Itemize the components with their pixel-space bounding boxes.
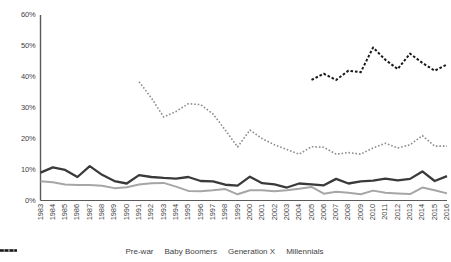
- legend-swatch-icon: [0, 247, 17, 254]
- x-axis-tick-2014: 2014: [418, 204, 426, 220]
- x-axis-tick-1995: 1995: [184, 204, 192, 220]
- x-axis-tick-2015: 2015: [431, 204, 439, 220]
- y-axis-tick-40: 40%: [21, 73, 35, 81]
- x-axis-tick-1987: 1987: [86, 204, 94, 220]
- x-axis-tick-2008: 2008: [344, 204, 352, 220]
- x-axis-tick-1983: 1983: [37, 204, 45, 220]
- y-axis-tick-60: 60%: [21, 11, 35, 19]
- x-axis-tick-2012: 2012: [394, 204, 402, 220]
- legend-item-baby-boomers[interactable]: Baby Boomers: [165, 247, 217, 256]
- chart-legend: Pre-warBaby BoomersGeneration XMillennia…: [0, 247, 449, 256]
- x-axis-tick-2006: 2006: [320, 204, 328, 220]
- x-axis-tick-1984: 1984: [49, 204, 57, 220]
- series-line-pre-war: [41, 181, 448, 194]
- x-axis-tick-1985: 1985: [61, 204, 69, 220]
- legend-item-millennials[interactable]: Millennials: [286, 247, 323, 256]
- legend-label: Generation X: [228, 247, 275, 256]
- series-line-baby-boomers: [41, 166, 448, 187]
- x-axis-tick-2001: 2001: [258, 204, 266, 220]
- x-axis-tick-2016: 2016: [443, 204, 451, 220]
- y-axis-tick-20: 20%: [21, 135, 35, 143]
- x-axis-tick-2002: 2002: [271, 204, 279, 220]
- x-axis-tick-1989: 1989: [110, 204, 118, 220]
- x-axis-tick-1991: 1991: [135, 204, 143, 220]
- legend-item-generation-x[interactable]: Generation X: [228, 247, 275, 256]
- series-line-generation-x: [139, 82, 447, 154]
- x-axis-tick-1986: 1986: [73, 204, 81, 220]
- x-axis-tick-2011: 2011: [381, 204, 389, 220]
- legend-label: Pre-war: [126, 247, 154, 256]
- x-axis-tick-2009: 2009: [357, 204, 365, 220]
- x-axis-tick-1990: 1990: [123, 204, 131, 220]
- x-axis-tick-2004: 2004: [295, 204, 303, 220]
- y-axis-tick-0: 0%: [25, 197, 35, 205]
- x-axis-tick-1994: 1994: [172, 204, 180, 220]
- legend-item-pre-war[interactable]: Pre-war: [126, 247, 154, 256]
- x-axis-tick-1993: 1993: [160, 204, 168, 220]
- x-axis-tick-2013: 2013: [406, 204, 414, 220]
- x-axis-tick-2005: 2005: [308, 204, 316, 220]
- x-axis-tick-2010: 2010: [369, 204, 377, 220]
- x-axis-tick-1988: 1988: [98, 204, 106, 220]
- x-axis-tick-2007: 2007: [332, 204, 340, 220]
- y-axis-tick-10: 10%: [21, 166, 35, 174]
- y-axis-tick-50: 50%: [21, 42, 35, 50]
- x-axis-tick-2000: 2000: [246, 204, 254, 220]
- x-axis-tick-1997: 1997: [209, 204, 217, 220]
- x-axis-tick-1998: 1998: [221, 204, 229, 220]
- series-line-millennials: [312, 47, 448, 79]
- x-axis-tick-2003: 2003: [283, 204, 291, 220]
- x-axis-tick-1999: 1999: [234, 204, 242, 220]
- x-axis-tick-1996: 1996: [197, 204, 205, 220]
- x-axis-tick-1992: 1992: [147, 204, 155, 220]
- y-axis-tick-30: 30%: [21, 104, 35, 112]
- legend-label: Millennials: [286, 247, 323, 256]
- legend-label: Baby Boomers: [165, 247, 217, 256]
